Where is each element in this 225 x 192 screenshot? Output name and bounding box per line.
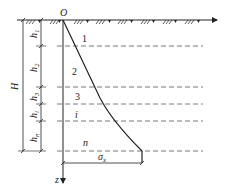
stress-label: σx bbox=[98, 151, 107, 164]
h3-label: h3 bbox=[28, 92, 41, 101]
layer-n-label: n bbox=[83, 137, 88, 148]
layer-labels: 1 2 3 i n bbox=[72, 33, 88, 148]
layer-2-label: 2 bbox=[72, 66, 77, 77]
layer-thickness-dimensions: h1 h2 h3 hi hn bbox=[28, 18, 43, 153]
layer-3-label: 3 bbox=[75, 91, 80, 102]
layer-1-label: 1 bbox=[82, 33, 87, 44]
origin-label: O bbox=[60, 7, 67, 18]
total-depth-dimension: H bbox=[9, 18, 25, 153]
ground-surface bbox=[17, 20, 217, 24]
depth-axis-label: z bbox=[54, 174, 59, 185]
h1-label: h1 bbox=[28, 30, 41, 39]
stress-dimension: σx bbox=[61, 151, 144, 165]
h2-label: h2 bbox=[28, 63, 41, 72]
hn-label: hn bbox=[28, 133, 41, 142]
hi-label: hi bbox=[28, 111, 41, 118]
layer-i-label: i bbox=[75, 109, 78, 120]
soil-layer-stress-diagram: O z H h1 h2 h3 hi bbox=[0, 0, 225, 192]
total-depth-label: H bbox=[9, 82, 20, 91]
